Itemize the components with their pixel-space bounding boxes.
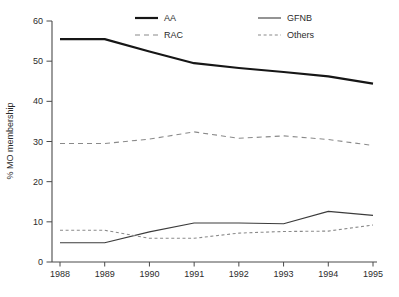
series-line-others (60, 225, 373, 238)
y-tick-label: 60 (33, 16, 43, 26)
x-tick-label: 1988 (50, 269, 70, 279)
legend-label-aa: AA (164, 13, 176, 23)
y-tick-label: 10 (33, 217, 43, 227)
y-tick-label: 20 (33, 177, 43, 187)
y-tick-label: 30 (33, 137, 43, 147)
x-tick-label: 1995 (363, 269, 383, 279)
y-tick-label: 0 (38, 257, 43, 267)
series-line-rac (60, 132, 373, 146)
membership-line-chart: 0102030405060198819891990199119921993199… (0, 0, 399, 297)
membership-line-chart-figure: 0102030405060198819891990199119921993199… (0, 0, 399, 297)
x-tick-label: 1994 (318, 269, 338, 279)
series-line-gfnb (60, 211, 373, 242)
x-tick-label: 1991 (184, 269, 204, 279)
y-tick-label: 40 (33, 96, 43, 106)
y-axis-title: % MO membership (5, 102, 15, 179)
x-tick-label: 1990 (139, 269, 159, 279)
legend-label-others: Others (287, 30, 315, 40)
legend-label-rac: RAC (164, 30, 184, 40)
x-tick-label: 1992 (229, 269, 249, 279)
series-line-aa (60, 39, 373, 84)
x-tick-label: 1989 (95, 269, 115, 279)
y-tick-label: 50 (33, 56, 43, 66)
x-tick-label: 1993 (274, 269, 294, 279)
legend-label-gfnb: GFNB (287, 13, 312, 23)
